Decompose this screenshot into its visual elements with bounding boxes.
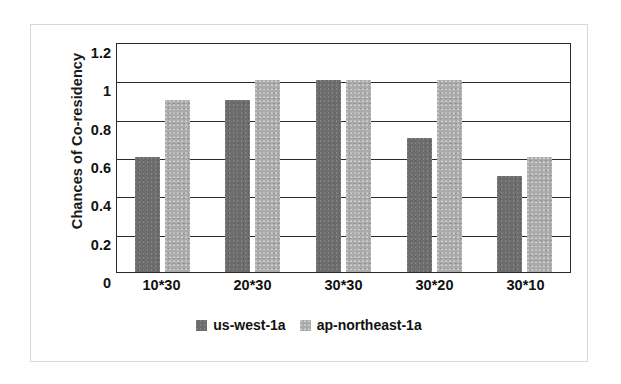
legend-entry[interactable]: us-west-1a	[196, 317, 285, 333]
bar-group	[208, 44, 299, 272]
y-tick-label: 0.2	[51, 237, 111, 252]
x-tick-label: 20*30	[207, 277, 298, 293]
bar[interactable]	[165, 100, 190, 273]
bar[interactable]	[407, 138, 432, 272]
figure-frame: Chances of Co-residency 00.20.40.60.811.…	[30, 24, 588, 362]
bar[interactable]	[225, 100, 250, 273]
legend-entry[interactable]: ap-northeast-1a	[300, 317, 422, 333]
bar-group	[298, 44, 389, 272]
legend-swatch-icon	[300, 320, 311, 331]
y-tick-label: 0	[51, 276, 111, 291]
bar[interactable]	[346, 80, 371, 272]
plot-area	[116, 43, 571, 273]
x-tick-label: 30*20	[389, 277, 480, 293]
legend-label: us-west-1a	[213, 317, 285, 333]
bar-group	[479, 44, 570, 272]
x-tick-label: 30*10	[480, 277, 571, 293]
chart-legend: us-west-1aap-northeast-1a	[31, 317, 587, 333]
y-axis-tick-labels: 00.20.40.60.811.2	[51, 35, 111, 273]
y-tick-label: 0.6	[51, 161, 111, 176]
bar[interactable]	[255, 80, 280, 272]
legend-label: ap-northeast-1a	[317, 317, 422, 333]
y-tick-label: 0.4	[51, 199, 111, 214]
y-tick-label: 0.8	[51, 122, 111, 137]
bar-chart: Chances of Co-residency 00.20.40.60.811.…	[31, 25, 587, 361]
legend-swatch-icon	[196, 320, 207, 331]
bar[interactable]	[527, 157, 552, 272]
x-tick-label: 10*30	[116, 277, 207, 293]
bar-group	[389, 44, 480, 272]
x-tick-label: 30*30	[298, 277, 389, 293]
bar[interactable]	[316, 80, 341, 272]
y-tick-label: 1	[51, 84, 111, 99]
y-tick-label: 1.2	[51, 46, 111, 61]
bar[interactable]	[135, 157, 160, 272]
x-axis-tick-labels: 10*3020*3030*3030*2030*10	[116, 277, 571, 293]
bar-group	[117, 44, 208, 272]
bars-layer	[117, 44, 570, 272]
bar[interactable]	[437, 80, 462, 272]
bar[interactable]	[497, 176, 522, 272]
